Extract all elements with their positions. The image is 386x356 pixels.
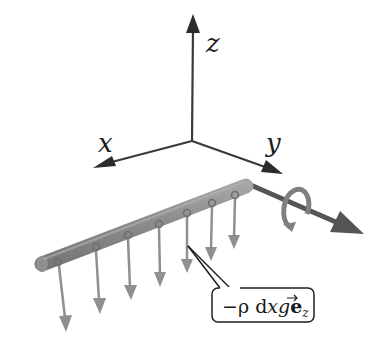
load-arrowhead-icon (205, 247, 217, 261)
coordinate-axes: z x y (93, 14, 283, 174)
load-arrow (211, 207, 212, 249)
load-arrowhead-icon (181, 259, 193, 273)
z-label: z (205, 28, 220, 58)
load-arrow (59, 266, 65, 318)
x-axis (108, 141, 192, 163)
z-axis (192, 28, 193, 141)
z-arrow-icon (186, 14, 200, 33)
load-arrowhead-icon (228, 235, 240, 249)
load-arrowhead-icon (154, 272, 166, 287)
load-arrow (128, 239, 130, 287)
x-label: x (98, 128, 113, 158)
load-arrowhead-icon (124, 285, 137, 300)
load-callout: −ρ dxgez (188, 246, 314, 322)
y-arrow-icon (261, 160, 283, 174)
moment-arrow-icon (330, 211, 364, 234)
load-arrow (159, 228, 160, 274)
load-arrowhead-icon (59, 315, 72, 332)
load-arrow (96, 251, 99, 300)
rod-body (42, 186, 246, 264)
load-arrow (234, 199, 235, 237)
load-arrowhead-icon (93, 298, 106, 314)
diagram-canvas: z x y (0, 0, 386, 356)
rod (36, 182, 246, 272)
y-axis (192, 141, 268, 168)
y-label: y (265, 128, 281, 158)
